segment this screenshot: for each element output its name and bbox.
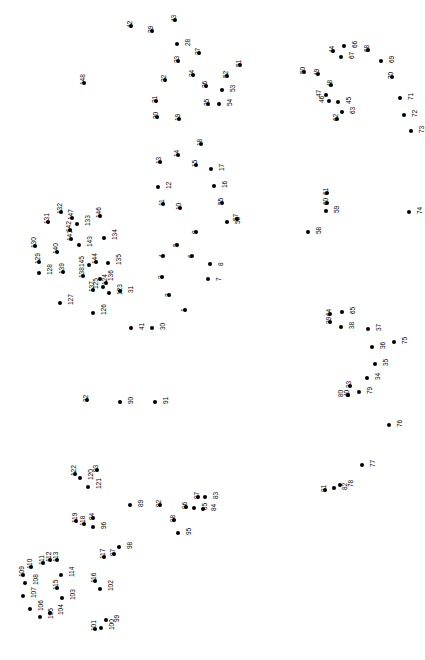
puzzle-dot[interactable]	[60, 596, 64, 600]
dot-number-label: 14	[174, 150, 181, 157]
puzzle-dot[interactable]	[220, 88, 224, 92]
puzzle-dot[interactable]	[78, 476, 82, 480]
puzzle-dot[interactable]	[156, 185, 160, 189]
dot-number-label: 67	[349, 52, 356, 59]
dot-number-label: 37	[376, 324, 383, 331]
dot-number-label: 30	[160, 323, 167, 330]
dot-number-label: 105	[48, 608, 55, 619]
puzzle-dot[interactable]	[342, 44, 346, 48]
dot-number-label: 97	[110, 549, 117, 556]
puzzle-dot[interactable]	[91, 311, 95, 315]
puzzle-dot[interactable]	[340, 110, 344, 114]
dot-number-label: 95	[186, 528, 193, 535]
puzzle-dot[interactable]	[203, 495, 207, 499]
puzzle-dot[interactable]	[209, 167, 213, 171]
puzzle-dot[interactable]	[21, 594, 25, 598]
puzzle-dot[interactable]	[336, 100, 340, 104]
puzzle-dot[interactable]	[98, 587, 102, 591]
puzzle-dot[interactable]	[99, 626, 103, 630]
puzzle-dot[interactable]	[176, 531, 180, 535]
puzzle-dot[interactable]	[339, 55, 343, 59]
dot-number-label: 128	[47, 264, 54, 275]
puzzle-dot[interactable]	[398, 96, 402, 100]
puzzle-dot[interactable]	[212, 184, 216, 188]
puzzle-dot[interactable]	[365, 376, 369, 380]
dot-number-label: 137	[89, 281, 96, 292]
dot-number-label: 45	[346, 97, 353, 104]
dot-number-label: 76	[397, 420, 404, 427]
puzzle-dot[interactable]	[340, 310, 344, 314]
dot-number-label: 132	[57, 203, 64, 214]
dot-number-label: 36	[380, 342, 387, 349]
puzzle-dot[interactable]	[107, 291, 111, 295]
puzzle-dot[interactable]	[175, 42, 179, 46]
puzzle-dot[interactable]	[206, 277, 210, 281]
puzzle-dot[interactable]	[379, 59, 383, 63]
dot-number-label: 121	[96, 478, 103, 489]
puzzle-dot[interactable]	[402, 113, 406, 117]
dot-number-label: 61	[323, 188, 330, 195]
puzzle-dot[interactable]	[409, 129, 413, 133]
dot-number-label: 27	[195, 48, 202, 55]
puzzle-dot[interactable]	[102, 236, 106, 240]
dot-number-label: 85	[202, 503, 209, 510]
dot-number-label: 51	[236, 60, 243, 67]
puzzle-dot[interactable]	[370, 345, 374, 349]
dot-number-label: 98	[127, 542, 134, 549]
puzzle-dot[interactable]	[117, 545, 121, 549]
puzzle-dot[interactable]	[28, 607, 32, 611]
dot-number-label: 79	[367, 387, 374, 394]
dot-number-label: 15	[192, 160, 199, 167]
puzzle-dot[interactable]	[208, 262, 212, 266]
dot-number-label: 135	[116, 254, 123, 265]
puzzle-dot[interactable]	[387, 423, 391, 427]
puzzle-dot[interactable]	[59, 573, 63, 577]
dot-number-label: 54	[227, 99, 234, 106]
puzzle-dot[interactable]	[106, 261, 110, 265]
dot-number-label: 48	[327, 80, 334, 87]
dot-number-label: 146	[96, 207, 103, 218]
puzzle-dot[interactable]	[324, 209, 328, 213]
dot-number-label: 18	[197, 139, 204, 146]
dot-number-label: 3	[158, 275, 165, 279]
puzzle-dot[interactable]	[192, 506, 196, 510]
puzzle-dot[interactable]	[58, 301, 62, 305]
puzzle-dot[interactable]	[128, 503, 132, 507]
puzzle-dot[interactable]	[77, 243, 81, 247]
dot-number-label: 11	[159, 199, 166, 206]
dot-number-label: 24	[189, 70, 196, 77]
puzzle-dot[interactable]	[306, 230, 310, 234]
puzzle-dot[interactable]	[87, 263, 91, 267]
puzzle-dot[interactable]	[392, 340, 396, 344]
puzzle-dot[interactable]	[324, 93, 328, 97]
dot-number-label: 22	[161, 75, 168, 82]
puzzle-dot[interactable]	[37, 271, 41, 275]
puzzle-dot[interactable]	[357, 390, 361, 394]
puzzle-dot[interactable]	[366, 327, 370, 331]
puzzle-dot[interactable]	[23, 581, 27, 585]
dot-number-label: 55	[218, 198, 225, 205]
puzzle-dot[interactable]	[225, 220, 229, 224]
puzzle-dot[interactable]	[129, 326, 133, 330]
puzzle-dot[interactable]	[339, 325, 343, 329]
puzzle-dot[interactable]	[153, 400, 157, 404]
puzzle-dot[interactable]	[118, 400, 122, 404]
puzzle-dot[interactable]	[332, 486, 336, 490]
puzzle-dot[interactable]	[217, 102, 221, 106]
puzzle-dot[interactable]	[86, 485, 90, 489]
puzzle-dot[interactable]	[407, 210, 411, 214]
dot-number-label: 60	[323, 198, 330, 205]
puzzle-dot[interactable]	[327, 99, 331, 103]
dot-number-label: 33	[346, 381, 353, 388]
puzzle-dot[interactable]	[150, 326, 154, 330]
puzzle-dot[interactable]	[91, 525, 95, 529]
dot-number-label: 7	[216, 277, 223, 281]
dot-number-label: 66	[352, 41, 359, 48]
puzzle-dot[interactable]	[38, 615, 42, 619]
puzzle-dot[interactable]	[360, 463, 364, 467]
dot-number-label: 116	[91, 573, 98, 583]
puzzle-dot[interactable]	[75, 222, 79, 226]
puzzle-dot[interactable]	[101, 285, 105, 289]
puzzle-dot[interactable]	[373, 362, 377, 366]
dot-number-label: 70	[388, 72, 395, 79]
